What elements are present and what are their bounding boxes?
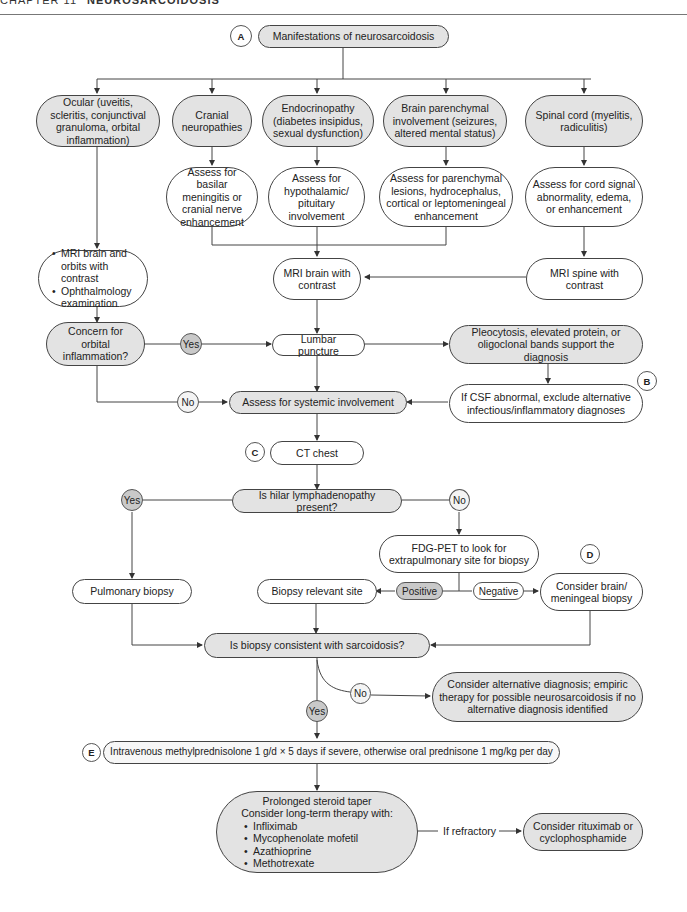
- badge-yes: Yes: [180, 333, 202, 355]
- ocular-workup-item: Ophthalmology examination: [61, 285, 141, 310]
- steroid-taper: Prolonged steroid taper Consider long-te…: [216, 791, 418, 873]
- badge-no: No: [177, 391, 199, 413]
- assess-cranial: Assess for basilar meningitis or cranial…: [166, 167, 258, 227]
- assess-endocrine: Assess for hypothalamic/ pituitary invol…: [268, 167, 365, 227]
- badge-positive: Positive: [396, 582, 443, 600]
- marker-b: B: [637, 371, 657, 391]
- taper-drug: Mycophenolate mofetil: [253, 832, 358, 845]
- marker-c: C: [245, 442, 265, 462]
- manifestation-endocrine: Endocrinopathy (diabetes insipidus, sexu…: [262, 95, 374, 147]
- orbital-question: Concern for orbital inflammation?: [46, 322, 145, 366]
- badge-yes: Yes: [121, 489, 143, 511]
- csf-support: Pleocytosis, elevated protein, or oligoc…: [449, 325, 643, 364]
- taper-drug: Azathioprine: [253, 845, 358, 858]
- badge-no: No: [350, 683, 371, 704]
- ct-chest: CT chest: [270, 441, 364, 465]
- manifestation-cranial: Cranial neuropathies: [172, 95, 252, 147]
- manifestation-spinal: Spinal cord (myelitis, radiculitis): [525, 95, 643, 147]
- manifestation-ocular: Ocular (uveitis, scleritis, conjunctival…: [36, 95, 160, 147]
- badge-negative: Negative: [473, 582, 524, 600]
- mri-spine: MRI spine with contrast: [526, 258, 643, 300]
- hilar-question: Is hilar lymphadenopathy present?: [232, 489, 402, 513]
- ocular-workup: MRI brain and orbits with contrast Ophth…: [38, 250, 148, 307]
- lumbar-puncture: Lumbar puncture: [272, 334, 365, 356]
- taper-drug: Infliximab: [253, 820, 358, 833]
- ocular-workup-item: MRI brain and orbits with contrast: [61, 247, 141, 285]
- root-manifestations: Manifestations of neurosarcoidosis: [258, 25, 449, 48]
- if-refractory-label: If refractory: [443, 825, 496, 837]
- alternative-diagnosis: Consider alternative diagnosis; empiric …: [432, 672, 643, 722]
- taper-drug: Methotrexate: [253, 857, 358, 870]
- marker-a: A: [230, 25, 252, 47]
- badge-no: No: [449, 489, 470, 511]
- taper-line1: Prolonged steroid taper: [262, 795, 371, 808]
- mri-brain: MRI brain with contrast: [273, 258, 361, 300]
- biopsy-relevant-site: Biopsy relevant site: [257, 579, 377, 604]
- fdg-pet: FDG-PET to look for extrapulmonary site …: [379, 535, 539, 573]
- pulmonary-biopsy: Pulmonary biopsy: [72, 579, 192, 604]
- taper-line2: Consider long-term therapy with:: [241, 807, 393, 820]
- steroid-therapy: Intravenous methylprednisolone 1 g/d × 5…: [103, 741, 560, 764]
- marker-d: D: [580, 544, 600, 564]
- brain-meningeal-biopsy: Consider brain/ meningeal biopsy: [540, 573, 643, 611]
- badge-yes: Yes: [306, 700, 328, 722]
- marker-e: E: [82, 743, 101, 762]
- refractory-therapy: Consider rituximab or cyclophosphamide: [523, 813, 643, 851]
- assess-systemic: Assess for systemic involvement: [229, 391, 407, 414]
- assess-parenchymal: Assess for parenchymal lesions, hydrocep…: [379, 167, 513, 227]
- manifestation-parenchymal: Brain parenchymal involvement (seizures,…: [383, 95, 507, 147]
- assess-spinal: Assess for cord signal abnormality, edem…: [525, 167, 643, 227]
- csf-abnormal: If CSF abnormal, exclude alternative inf…: [449, 384, 643, 423]
- biopsy-question: Is biopsy consistent with sarcoidosis?: [204, 633, 430, 658]
